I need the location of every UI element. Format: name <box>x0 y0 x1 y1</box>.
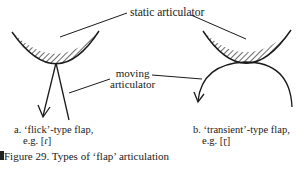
moving-label-line2: articulator <box>110 79 155 90</box>
panel-a-example-prefix: e.g. <box>23 135 38 146</box>
moving-articulator-label: moving articulator <box>110 68 155 90</box>
static-articulator-label: static articulator <box>130 7 204 18</box>
panel-b-static-articulator <box>203 30 291 63</box>
panel-b-caption: b. ‘transient’-type flap, e.g. [ɽ] <box>193 124 290 146</box>
panel-b-title: ‘transient’-type flap, <box>204 124 290 135</box>
figure-caption: Figure 29. Types of ‘flap’ articulation <box>4 150 169 162</box>
panel-a-title: ‘flick’-type flap, <box>24 124 93 135</box>
panel-a-letter: a. <box>14 124 21 135</box>
panel-a-caption: a. ‘flick’-type flap, e.g. [ɾ] <box>14 124 93 146</box>
flap-articulation-diagram: static articulator moving articulator a.… <box>0 0 308 170</box>
panel-a-static-articulator <box>12 31 99 64</box>
panel-b-example-prefix: e.g. <box>202 135 217 146</box>
panel-a-example-symbol: [ɾ] <box>41 135 52 146</box>
panel-a-moving-articulator <box>38 63 69 120</box>
panel-b-letter: b. <box>193 124 201 135</box>
panel-a-example: e.g. [ɾ] <box>14 135 93 146</box>
panel-b-example: e.g. [ɽ] <box>193 135 290 146</box>
panel-b-example-symbol: [ɽ] <box>220 135 231 146</box>
panel-b-moving-articulator <box>194 62 292 107</box>
